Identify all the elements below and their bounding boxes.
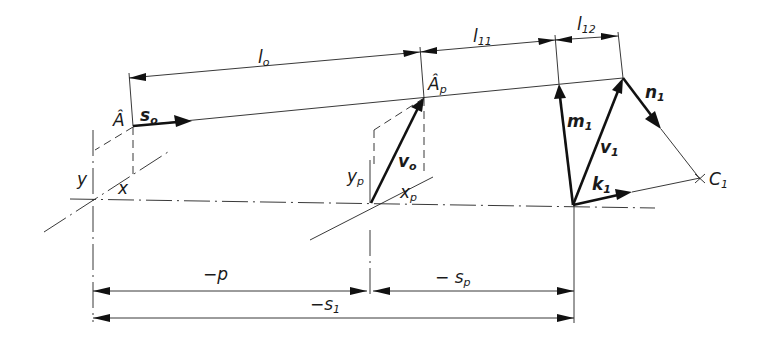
- label-k1: k1: [592, 174, 611, 196]
- label-s0: so: [140, 105, 158, 127]
- label-x: x: [117, 178, 129, 198]
- coordinate-system-pupil: [310, 160, 433, 298]
- label-l0: lo: [258, 47, 270, 69]
- vector-m1: [554, 84, 573, 205]
- extension-lines: [129, 32, 623, 126]
- dimension-l0: [129, 50, 420, 81]
- label-y: y: [76, 169, 88, 189]
- projection-A: [95, 127, 133, 178]
- ray-line: [133, 78, 623, 126]
- label-v0: vo: [398, 151, 417, 173]
- label-m1: m1: [567, 111, 592, 133]
- label-l11: l11: [473, 26, 492, 48]
- label-C1: C1: [709, 169, 728, 191]
- label-minus-p: −p: [203, 264, 228, 284]
- label-l12: l12: [577, 14, 596, 36]
- dimension-minus-sp: [373, 287, 574, 295]
- label-xp: xp: [399, 182, 417, 204]
- label-n1: n1: [645, 82, 665, 104]
- label-A-hat-p: Âp: [427, 73, 447, 96]
- label-yp: yp: [346, 166, 364, 188]
- label-minus-sp: − sp: [435, 267, 471, 289]
- label-v1: v1: [600, 137, 619, 159]
- label-minus-s1: −s1: [310, 294, 340, 316]
- optical-vector-diagram: Â so lo l11 l12 Âp m1 v1 n1 k1 C1 vo y x…: [0, 0, 762, 338]
- label-A-hat: Â: [112, 109, 125, 130]
- optical-axis: [70, 199, 655, 208]
